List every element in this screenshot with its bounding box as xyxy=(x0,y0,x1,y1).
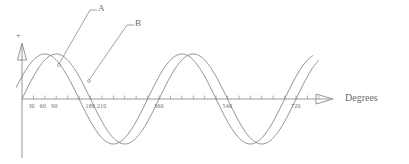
plot-canvas xyxy=(0,0,409,164)
x-axis-label: Degrees xyxy=(345,93,378,103)
leader-line-a xyxy=(59,10,97,64)
y-axis-positive-sign: + xyxy=(16,32,21,40)
x-tick-label: 30 xyxy=(28,103,34,109)
axis-layer xyxy=(18,43,334,158)
x-tick-label: 720 xyxy=(291,103,301,109)
x-axis-ticks xyxy=(33,96,318,100)
x-tick-label: 180 xyxy=(86,103,96,109)
leader-anchor-b xyxy=(88,80,91,83)
x-tick-label: 360 xyxy=(154,103,164,109)
curve-label-b: B xyxy=(135,19,141,28)
x-tick-label: 540 xyxy=(223,103,233,109)
x-tick-label: 60 xyxy=(40,103,46,109)
x-tick-label: 90 xyxy=(51,103,57,109)
annotation-leader-lines xyxy=(57,10,134,82)
sine-wave-figure: + Degrees A B 306090180210360540720 xyxy=(0,0,409,164)
curve-label-a: A xyxy=(98,4,105,13)
leader-line-b xyxy=(89,25,134,80)
x-tick-label: 210 xyxy=(97,103,107,109)
